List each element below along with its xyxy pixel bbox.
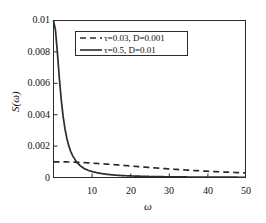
chart-figure: 0 0.002 0.004 0.006 0.008 0.01 10 20 30 …	[0, 0, 266, 223]
legend-swatch-solid	[79, 45, 103, 55]
y-axis-title: S(ω)	[10, 91, 21, 112]
legend-entry-dashed: τ=0.03, D=0.001	[76, 32, 187, 44]
legend-swatch-dashed	[79, 33, 103, 43]
ytick-label-0: 0	[20, 173, 50, 183]
ytick-label-0.008: 0.008	[12, 47, 50, 57]
xtick-label-10: 10	[80, 186, 104, 196]
ytick-label-0.006: 0.006	[12, 78, 50, 88]
xtick-label-20: 20	[119, 186, 143, 196]
ytick-label-0.01: 0.01	[12, 15, 50, 25]
legend-label-solid: τ=0.5, D=0.01	[104, 46, 156, 55]
xtick-label-40: 40	[196, 186, 220, 196]
legend: τ=0.03, D=0.001 τ=0.5, D=0.01	[75, 31, 188, 56]
legend-entry-solid: τ=0.5, D=0.01	[76, 44, 187, 56]
x-axis-title: ω	[144, 201, 152, 212]
xtick-label-30: 30	[157, 186, 181, 196]
legend-label-dashed: τ=0.03, D=0.001	[104, 34, 165, 43]
xtick-label-50: 50	[234, 186, 258, 196]
ytick-label-0.002: 0.002	[12, 141, 50, 151]
